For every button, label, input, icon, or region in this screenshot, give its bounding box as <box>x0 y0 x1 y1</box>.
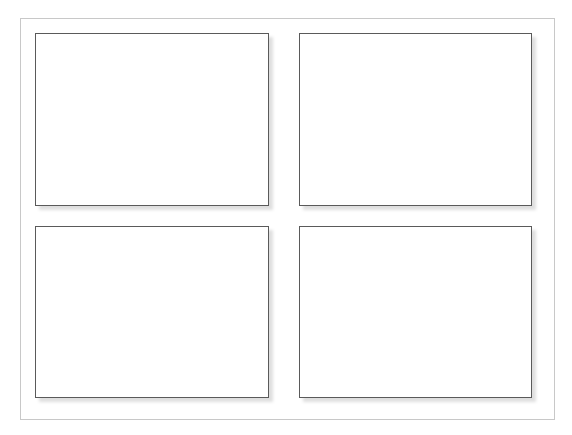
panel-top-right <box>299 33 532 206</box>
panel-bottom-right <box>299 226 532 398</box>
panel-bottom-left <box>35 226 269 398</box>
page-canvas <box>0 0 572 435</box>
panel-top-left <box>35 33 269 206</box>
